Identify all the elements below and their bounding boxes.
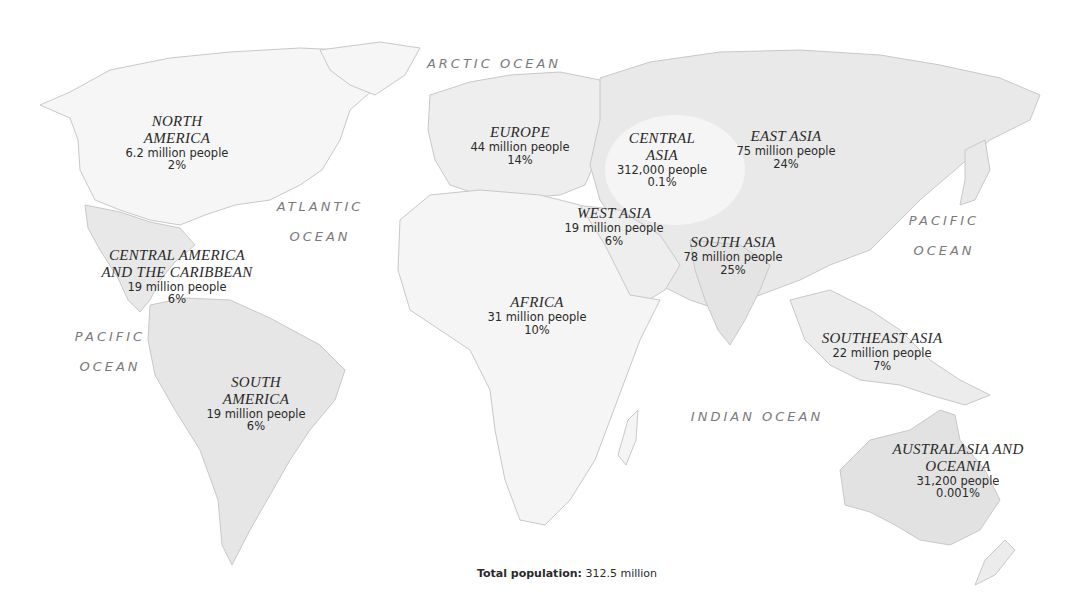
total-population-value: 312.5 million	[582, 567, 657, 580]
ocean-label-indian: INDIAN OCEAN	[691, 402, 823, 432]
ocean-name: ARCTIC OCEAN	[427, 49, 561, 79]
region-name: AFRICA	[487, 294, 586, 311]
region-percent: 10%	[487, 324, 586, 337]
region-percent: 6%	[206, 420, 305, 433]
region-south-asia: SOUTH ASIA 78 million people 25%	[683, 234, 782, 277]
region-population: 31 million people	[487, 311, 586, 324]
region-population: 22 million people	[822, 347, 943, 360]
region-percent: 14%	[470, 154, 569, 167]
region-name-line2: ASIA	[617, 147, 707, 164]
ocean-name-line1: PACIFIC	[75, 322, 145, 352]
region-percent: 6%	[102, 293, 253, 306]
region-name-line1: CENTRAL AMERICA	[102, 247, 253, 264]
region-south-america: SOUTH AMERICA 19 million people 6%	[206, 374, 305, 433]
region-percent: 7%	[822, 360, 943, 373]
ocean-name-line1: ATLANTIC	[277, 192, 364, 222]
region-percent: 0.001%	[892, 487, 1023, 500]
region-name-line2: AMERICA	[126, 130, 229, 147]
region-name: EUROPE	[470, 124, 569, 141]
region-australasia-oceania: AUSTRALASIA AND OCEANIA 31,200 people 0.…	[892, 441, 1023, 500]
region-west-asia: WEST ASIA 19 million people 6%	[564, 205, 663, 248]
ocean-label-atlantic: ATLANTIC OCEAN	[277, 192, 364, 252]
region-percent: 2%	[126, 159, 229, 172]
landmass-madagascar	[618, 410, 638, 465]
region-central-asia: CENTRAL ASIA 312,000 people 0.1%	[617, 130, 707, 189]
region-central-america: CENTRAL AMERICA AND THE CARIBBEAN 19 mil…	[102, 247, 253, 306]
region-name-line1: SOUTH	[206, 374, 305, 391]
ocean-label-pacific-east: PACIFIC OCEAN	[909, 206, 979, 266]
total-population-label: Total population:	[477, 567, 582, 580]
region-percent: 0.1%	[617, 176, 707, 189]
region-name-line1: NORTH	[126, 113, 229, 130]
ocean-name-line2: OCEAN	[277, 222, 364, 252]
ocean-label-arctic: ARCTIC OCEAN	[427, 49, 561, 79]
region-east-asia: EAST ASIA 75 million people 24%	[736, 128, 835, 171]
region-europe: EUROPE 44 million people 14%	[470, 124, 569, 167]
total-population: Total population: 312.5 million	[477, 567, 657, 580]
region-percent: 6%	[564, 235, 663, 248]
region-name-line2: AMERICA	[206, 391, 305, 408]
landmass-new-zealand	[975, 540, 1015, 585]
ocean-label-pacific-west: PACIFIC OCEAN	[75, 322, 145, 382]
ocean-name-line2: OCEAN	[909, 236, 979, 266]
region-north-america: NORTH AMERICA 6.2 million people 2%	[126, 113, 229, 172]
region-africa: AFRICA 31 million people 10%	[487, 294, 586, 337]
region-population: 78 million people	[683, 251, 782, 264]
region-name: SOUTHEAST ASIA	[822, 330, 943, 347]
region-name-line1: CENTRAL	[617, 130, 707, 147]
region-percent: 25%	[683, 264, 782, 277]
ocean-name: INDIAN OCEAN	[691, 402, 823, 432]
region-population: 75 million people	[736, 145, 835, 158]
region-population: 19 million people	[564, 222, 663, 235]
region-name-line2: OCEANIA	[892, 458, 1023, 475]
region-southeast-asia: SOUTHEAST ASIA 22 million people 7%	[822, 330, 943, 373]
ocean-name-line1: PACIFIC	[909, 206, 979, 236]
region-name: WEST ASIA	[564, 205, 663, 222]
region-name: SOUTH ASIA	[683, 234, 782, 251]
region-name: EAST ASIA	[736, 128, 835, 145]
region-population: 44 million people	[470, 141, 569, 154]
region-name-line1: AUSTRALASIA AND	[892, 441, 1023, 458]
ocean-name-line2: OCEAN	[75, 352, 145, 382]
region-percent: 24%	[736, 158, 835, 171]
region-name-line2: AND THE CARIBBEAN	[102, 264, 253, 281]
